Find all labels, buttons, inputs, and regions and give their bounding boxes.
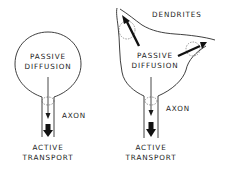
right-passive-label: PASSIVE xyxy=(137,51,173,60)
right-axon-label: AXON xyxy=(166,104,190,113)
left-axon-label: AXON xyxy=(62,111,86,120)
right-transport-label: TRANSPORT xyxy=(125,153,177,162)
right-diffusion-arrowhead xyxy=(149,110,154,116)
left-transport-arrow-shaft xyxy=(46,124,51,131)
right-dendrite-arrow-right-shaft xyxy=(178,46,200,56)
neuron-transport-diagram: PASSIVE DIFFUSION AXON ACTIVE TRANSPORT … xyxy=(0,0,229,170)
left-active-label: ACTIVE xyxy=(32,143,63,152)
left-transport-label: TRANSPORT xyxy=(22,153,74,162)
right-transport-arrowhead xyxy=(146,129,156,137)
right-diffusion-label: DIFFUSION xyxy=(132,61,179,70)
left-passive-label: PASSIVE xyxy=(30,52,66,61)
right-dendrite-arrow-left-shaft xyxy=(127,22,139,46)
right-transport-arrow-shaft xyxy=(149,122,154,130)
left-diffusion-label: DIFFUSION xyxy=(25,62,72,71)
right-neuron: DENDRITES PASSIVE DIFFUSION AXON ACTIVE … xyxy=(117,8,215,162)
left-neuron: PASSIVE DIFFUSION AXON ACTIVE TRANSPORT xyxy=(15,32,86,162)
left-transport-arrowhead xyxy=(43,130,53,137)
right-dendrite-arrow-left-head xyxy=(122,15,130,24)
right-active-label: ACTIVE xyxy=(135,143,166,152)
right-dendrites-label: DENDRITES xyxy=(152,10,202,19)
left-diffusion-arrowhead xyxy=(46,113,51,119)
